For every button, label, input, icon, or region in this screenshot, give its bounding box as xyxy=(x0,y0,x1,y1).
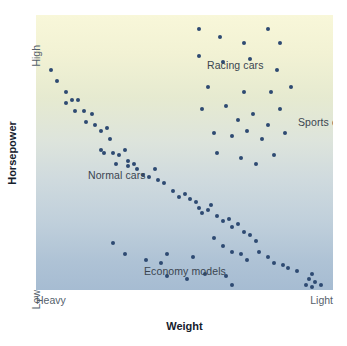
data-point xyxy=(90,112,94,116)
data-point xyxy=(111,241,115,245)
data-point xyxy=(84,120,88,124)
data-point xyxy=(49,68,53,72)
data-point xyxy=(221,244,225,248)
x-axis-heavy-label: Heavy xyxy=(36,294,66,306)
data-point xyxy=(286,266,290,270)
x-axis-title: Weight xyxy=(36,320,333,332)
x-axis-light-label: Light xyxy=(310,294,333,306)
data-point xyxy=(206,85,210,89)
data-point xyxy=(215,151,219,155)
data-point xyxy=(239,252,243,256)
data-point xyxy=(126,164,130,168)
data-point xyxy=(227,217,231,221)
data-point xyxy=(171,189,175,193)
data-point xyxy=(230,283,234,287)
data-point xyxy=(209,203,213,207)
data-point xyxy=(289,85,293,89)
data-point xyxy=(153,167,157,171)
data-point xyxy=(102,151,106,155)
data-point xyxy=(64,90,68,94)
data-point xyxy=(242,90,246,94)
data-point xyxy=(248,233,252,237)
data-point xyxy=(70,98,74,102)
data-point xyxy=(260,137,264,141)
data-point xyxy=(126,159,130,163)
data-point xyxy=(147,175,151,179)
data-point xyxy=(245,129,249,133)
data-point xyxy=(144,258,148,262)
annotation-economy-models: Economy models xyxy=(144,265,226,277)
data-point xyxy=(278,107,282,111)
data-point xyxy=(165,252,169,256)
data-point xyxy=(304,283,308,287)
data-point xyxy=(212,236,216,240)
data-point xyxy=(197,206,201,210)
data-point xyxy=(123,148,127,152)
data-point xyxy=(251,112,255,116)
annotation-racing-cars: Racing cars xyxy=(207,59,264,71)
data-point xyxy=(313,280,317,284)
data-point xyxy=(230,134,234,138)
data-point xyxy=(183,192,187,196)
data-point xyxy=(224,104,228,108)
data-point xyxy=(283,131,287,135)
data-point xyxy=(132,162,136,166)
data-point xyxy=(76,98,80,102)
data-point xyxy=(194,200,198,204)
y-axis-title-text: Horsepower xyxy=(6,121,18,185)
data-point xyxy=(236,118,240,122)
data-point xyxy=(108,137,112,141)
data-point xyxy=(278,41,282,45)
data-point xyxy=(310,285,314,289)
data-point xyxy=(257,250,261,254)
data-point xyxy=(218,35,222,39)
data-point xyxy=(82,109,86,113)
plot-area: Racing cars Sports cars Normal cars Econ… xyxy=(36,15,333,290)
data-point xyxy=(307,277,311,281)
data-point xyxy=(162,181,166,185)
annotation-sports-cars: Sports cars xyxy=(298,116,333,128)
data-point xyxy=(221,219,225,223)
annotation-normal-cars: Normal cars xyxy=(88,169,146,181)
data-point xyxy=(64,101,68,105)
data-point xyxy=(123,252,127,256)
data-point xyxy=(200,107,204,111)
data-point xyxy=(117,153,121,157)
data-point xyxy=(319,283,323,287)
y-axis-title: Horsepower xyxy=(0,15,24,290)
data-point xyxy=(93,123,97,127)
data-point xyxy=(188,197,192,201)
data-point xyxy=(254,162,258,166)
data-point xyxy=(245,258,249,262)
data-point xyxy=(215,214,219,218)
data-point xyxy=(99,129,103,133)
data-point xyxy=(269,90,273,94)
data-point xyxy=(275,68,279,72)
scatter-plot-figure: Racing cars Sports cars Normal cars Econ… xyxy=(0,0,347,346)
data-point xyxy=(266,255,270,259)
data-point xyxy=(272,153,276,157)
data-point xyxy=(230,225,234,229)
data-point xyxy=(111,151,115,155)
data-point xyxy=(212,131,216,135)
data-point xyxy=(114,162,118,166)
data-point xyxy=(200,211,204,215)
data-point xyxy=(266,123,270,127)
data-point xyxy=(272,261,276,265)
data-point xyxy=(206,208,210,212)
data-point xyxy=(177,195,181,199)
y-axis-high-label: High xyxy=(30,45,42,75)
data-point xyxy=(236,222,240,226)
data-point xyxy=(197,27,201,31)
data-point xyxy=(242,41,246,45)
data-point xyxy=(55,79,59,83)
data-point xyxy=(159,261,163,265)
data-point xyxy=(266,27,270,31)
data-point xyxy=(185,277,189,281)
data-point xyxy=(156,178,160,182)
data-point xyxy=(73,109,77,113)
data-point xyxy=(242,230,246,234)
data-point xyxy=(281,263,285,267)
data-point xyxy=(105,126,109,130)
data-point xyxy=(254,239,258,243)
